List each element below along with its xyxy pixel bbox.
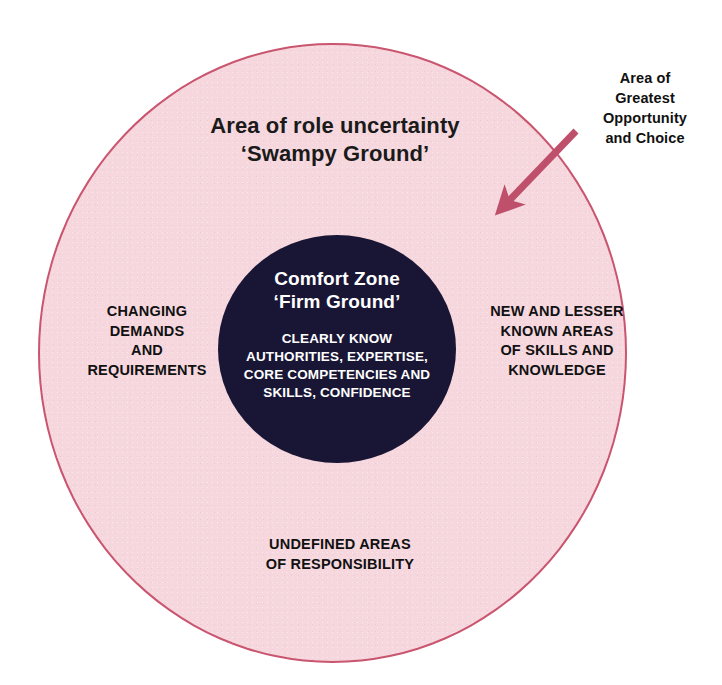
label-changing-demands: CHANGING DEMANDS AND REQUIREMENTS: [72, 302, 222, 381]
inner-zone-comfort-zone: Comfort Zone ‘Firm Ground’ CLEARLY KNOW …: [218, 235, 456, 463]
inner-zone-title: Comfort Zone ‘Firm Ground’: [274, 267, 401, 313]
diagram-canvas: Area of role uncertainty ‘Swampy Ground’…: [0, 0, 722, 685]
annotation-area-of-greatest-opportunity: Area of Greatest Opportunity and Choice: [575, 68, 715, 148]
outer-zone-title: Area of role uncertainty ‘Swampy Ground’: [0, 112, 670, 168]
label-undefined-areas: UNDEFINED AREAS OF RESPONSIBILITY: [200, 535, 480, 574]
inner-zone-body: CLEARLY KNOW AUTHORITIES, EXPERTISE, COR…: [244, 330, 430, 402]
label-new-and-lesser-known-areas: NEW AND LESSER KNOWN AREAS OF SKILLS AND…: [477, 302, 637, 381]
